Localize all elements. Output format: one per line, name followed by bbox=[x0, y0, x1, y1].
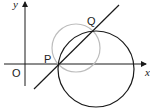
point-p-label: P bbox=[44, 53, 51, 65]
origin-label: O bbox=[12, 67, 21, 79]
large-circle bbox=[58, 31, 134, 107]
y-axis-label: y bbox=[12, 0, 18, 10]
geometry-diagram: y x O P Q bbox=[0, 0, 150, 109]
line-pq bbox=[34, 5, 119, 89]
x-axis-label: x bbox=[144, 66, 150, 78]
point-q-label: Q bbox=[87, 15, 96, 27]
